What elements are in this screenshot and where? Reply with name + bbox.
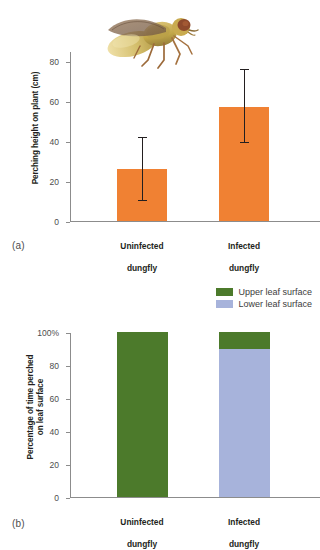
category-line-2: dungfly: [120, 539, 163, 550]
legend-label-upper: Upper leaf surface: [238, 287, 312, 297]
panel-b-ticklabel-40: 40: [50, 427, 59, 437]
errorbar-cap-top: [138, 137, 147, 138]
panel-a-tick-20: 20: [66, 182, 70, 183]
panel-b-y-axis-line: [70, 333, 71, 498]
legend-label-lower: Lower leaf surface: [238, 299, 312, 309]
panel-b-y-axis-title: Percentage of time perched on leaf surfa…: [26, 317, 46, 497]
panel-b-plot-area: 100% 80 60 40 20 0: [70, 333, 306, 498]
errorbar-cap-top: [240, 69, 249, 70]
errorbar-line: [244, 69, 245, 143]
panel-b-bar-uninfected: [117, 332, 168, 497]
panel-b-ticklabel-0: 0: [54, 493, 59, 503]
category-line-1: Infected: [228, 517, 260, 528]
panel-b-y-axis-title-line2: on leaf surface: [36, 317, 46, 497]
panel-b-tick-40: 40: [66, 432, 70, 433]
category-line-2: dungfly: [228, 263, 260, 274]
panel-a-x-axis-line: [70, 221, 320, 222]
figure-dungfly-perching: (a) Perching height on plant (cm): [0, 0, 320, 550]
errorbar-cap-bottom: [240, 142, 249, 143]
panel-b-tick-20: 20: [66, 465, 70, 466]
panel-a: (a) Perching height on plant (cm): [0, 0, 320, 275]
panel-b-y-axis-title-line1: Percentage of time perched: [26, 317, 36, 497]
panel-b-ticklabel-80: 80: [50, 361, 59, 371]
panel-b-tick-80: 80: [66, 366, 70, 367]
bar-segment-upper-leaf-surface: [219, 332, 270, 349]
category-line-1: Uninfected: [120, 517, 163, 528]
category-line-1: Uninfected: [120, 241, 163, 252]
panel-a-ticklabel-40: 40: [50, 137, 59, 147]
category-line-2: dungfly: [120, 263, 163, 274]
panel-a-ticklabel-20: 20: [50, 177, 59, 187]
panel-a-ticklabel-0: 0: [54, 217, 59, 227]
panel-a-ticklabel-60: 60: [50, 97, 59, 107]
category-line-2: dungfly: [228, 539, 260, 550]
panel-b-tick-0: 0: [66, 498, 70, 499]
panel-b-ticklabel-100: 100%: [37, 328, 59, 338]
panel-a-plot-area: 80 60 40 20 0: [70, 52, 306, 222]
panel-b-ticklabel-20: 20: [50, 460, 59, 470]
errorbar-cap-bottom: [138, 200, 147, 201]
panel-b: (b) Upper leaf surface Lower leaf surfac…: [0, 275, 320, 550]
panel-a-tick-40: 40: [66, 142, 70, 143]
panel-a-tick-60: 60: [66, 102, 70, 103]
legend-swatch-upper-icon: [216, 288, 233, 296]
panel-b-x-axis-line: [70, 497, 320, 498]
panel-a-ticklabel-80: 80: [50, 57, 59, 67]
errorbar-line: [142, 137, 143, 201]
legend-item-upper-leaf-surface[interactable]: Upper leaf surface: [216, 287, 312, 297]
panel-a-tick-0: 0: [66, 222, 70, 223]
bar-segment-lower-leaf-surface: [219, 349, 270, 498]
category-line-1: Infected: [228, 241, 260, 252]
panel-a-errorbar-infected: [219, 69, 269, 143]
legend-item-lower-leaf-surface[interactable]: Lower leaf surface: [216, 299, 312, 309]
panel-b-tick-100: 100%: [66, 333, 70, 334]
legend: Upper leaf surface Lower leaf surface: [216, 287, 312, 311]
panel-b-label: (b): [12, 518, 25, 529]
panel-b-bar-infected: [219, 332, 270, 497]
panel-a-y-axis-line: [70, 52, 71, 222]
panel-b-category-uninfected: Uninfected dungfly: [120, 506, 163, 550]
panel-a-tick-80: 80: [66, 62, 70, 63]
panel-a-label: (a): [12, 240, 25, 251]
panel-b-category-infected: Infected dungfly: [228, 506, 260, 550]
panel-b-tick-60: 60: [66, 399, 70, 400]
panel-a-errorbar-uninfected: [117, 137, 167, 201]
bar-segment-upper-leaf-surface: [117, 332, 168, 497]
panel-a-y-axis-title: Perching height on plant (cm): [31, 38, 41, 218]
legend-swatch-lower-icon: [216, 300, 233, 308]
panel-b-ticklabel-60: 60: [50, 394, 59, 404]
